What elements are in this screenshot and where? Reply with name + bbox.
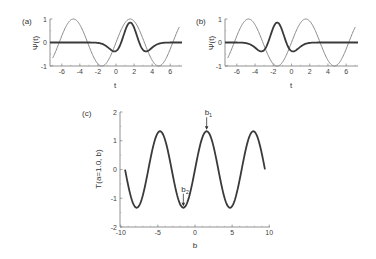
x-tick-label: 6	[344, 68, 348, 75]
x-tick-label: 4	[150, 68, 154, 75]
x-tick-label: 2	[132, 68, 136, 75]
y-tick-label: -1	[111, 195, 117, 202]
wavelet-curve-b	[225, 23, 358, 52]
x-tick-label: 0	[193, 229, 197, 236]
panel-a: (a) -6-4-2024610-1 t Ψ(t)	[22, 16, 182, 91]
y-tick-label: 1	[113, 137, 117, 144]
y-tick-label: 2	[113, 109, 117, 116]
x-tick-label: 5	[230, 229, 234, 236]
y-tick-label: 0	[43, 39, 47, 46]
wavelet-curve-a	[50, 23, 182, 52]
panel-b: (b) -6-4-2024610-1 t Ψ(t)	[196, 16, 358, 91]
axes-c: -10-50510210-1-2	[111, 109, 273, 237]
x-axis-label-b: t	[290, 81, 293, 90]
x-tick-label: -6	[234, 68, 240, 75]
x-tick-label: -4	[77, 68, 83, 75]
x-tick-label: -10	[116, 229, 126, 236]
panel-c: (c) -10-50510210-1-2 b T(a=1.0, b) b1b2	[82, 108, 273, 250]
annotation-b1: b1	[205, 108, 213, 130]
x-tick-label: -2	[270, 68, 276, 75]
y-tick-label: 0	[218, 39, 222, 46]
x-tick-label: 0	[290, 68, 294, 75]
y-axis-label-b: Ψ(t)	[207, 36, 216, 51]
x-tick-label: 4	[326, 68, 330, 75]
y-axis-label-c: T(a=1.0, b)	[94, 149, 103, 189]
panel-label-b: (b)	[196, 17, 206, 26]
annotation-label: b2	[181, 185, 189, 195]
x-tick-label: 10	[265, 229, 273, 236]
x-tick-label: -5	[155, 229, 161, 236]
x-tick-label: -2	[95, 68, 101, 75]
y-tick-label: 0	[113, 166, 117, 173]
x-tick-label: 6	[168, 68, 172, 75]
y-tick-label: -1	[41, 63, 47, 70]
figure: (a) -6-4-2024610-1 t Ψ(t) (b) -6-4-20246…	[0, 0, 376, 259]
y-tick-label: 1	[43, 16, 47, 23]
panel-label-c: (c)	[82, 109, 92, 118]
y-tick-label: -2	[111, 224, 117, 231]
x-tick-label: 2	[308, 68, 312, 75]
panel-label-a: (a)	[22, 17, 32, 26]
x-axis-label-a: t	[114, 81, 117, 90]
axes-a: -6-4-2024610-1	[41, 16, 182, 76]
x-tick-label: 0	[114, 68, 118, 75]
x-tick-label: -6	[59, 68, 65, 75]
annotation-label: b1	[205, 108, 213, 118]
y-axis-label-a: Ψ(t)	[31, 36, 40, 51]
x-tick-label: -4	[252, 68, 258, 75]
y-tick-label: -1	[216, 63, 222, 70]
transform-curve-c	[125, 131, 265, 207]
x-axis-label-c: b	[193, 241, 198, 250]
y-tick-label: 1	[218, 16, 222, 23]
